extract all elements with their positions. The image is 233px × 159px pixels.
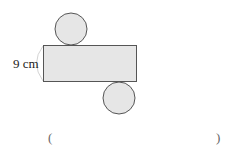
answer-blank[interactable] [58, 131, 213, 145]
height-label: 9 cm [13, 57, 39, 70]
answer-open-paren: ( [48, 131, 52, 144]
lateral-rectangle [44, 46, 137, 82]
answer-close-paren: ) [216, 131, 220, 144]
top-circle-base [55, 13, 87, 45]
bottom-circle-base [103, 82, 135, 114]
